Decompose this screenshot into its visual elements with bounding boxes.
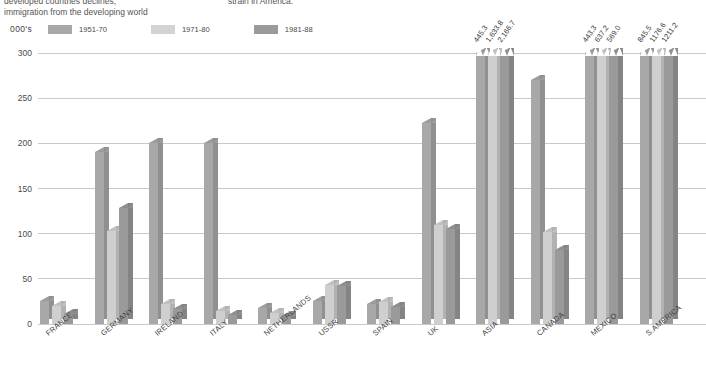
bar-top [391,302,400,307]
bar-top [531,75,540,80]
bar-top-cap [128,203,133,208]
bar-face [258,308,267,324]
y-tick-label-0: 0 [27,319,32,329]
bar-face [585,53,594,324]
bar-face [149,143,158,324]
bar-face [664,53,673,324]
bar[interactable] [585,53,594,324]
bar-top-cap [400,302,405,307]
bar[interactable] [367,304,376,324]
axis-break-marker [500,47,515,56]
bar-top-cap [213,138,218,143]
bar-face [476,53,485,324]
bar-side [346,281,351,319]
bar-top [173,304,182,309]
bar-face [95,152,104,324]
bar-top-cap [552,227,557,232]
legend-label-1971-80: 1971-80 [182,25,210,34]
legend-item-1971-80[interactable]: 1971-80 [151,25,210,34]
axis-break-marker [664,47,679,56]
bar-group [531,53,586,324]
bar-group [476,53,531,324]
bar[interactable] [640,53,649,324]
bar-top [228,310,237,315]
bar[interactable] [609,53,618,324]
bar-group [204,53,259,324]
bar-top-cap [237,310,242,315]
bar-face [609,53,618,324]
legend-item-1951-70[interactable]: 1951-70 [48,25,107,34]
bar-top-cap [182,304,187,309]
bar-face [446,229,455,324]
bar-side [509,48,514,319]
bar-top-cap [158,138,163,143]
bar[interactable] [313,301,322,324]
bar-top [52,301,61,306]
legend-swatch-1981-88 [254,25,278,34]
bar-side [455,224,460,319]
bar-chart-plot-area: 050100150200250300FRANCEGERMANYIRELANDIT… [38,53,706,324]
bar[interactable] [446,229,455,324]
bar-face [313,301,322,324]
legend-swatch-1951-70 [48,25,72,34]
legend-item-1981-88[interactable]: 1981-88 [254,25,313,34]
caption-left-text: developed countries declines, immigratio… [4,0,244,18]
bar[interactable] [543,232,552,324]
legend-swatch-1971-80 [151,25,175,34]
bar-top [543,227,552,232]
bar-side [158,138,163,319]
bar-top [258,303,267,308]
bar-group [258,53,313,324]
y-tick-label-300: 300 [18,48,32,58]
caption-right-text: strain in America. [228,0,448,7]
bar-top [446,224,455,229]
legend-label-1981-88: 1981-88 [285,25,313,34]
y-tick-label-200: 200 [18,138,32,148]
bar[interactable] [149,143,158,324]
bar[interactable] [107,231,116,324]
bar-top [325,280,334,285]
bar[interactable] [597,53,606,324]
bar-face [531,80,540,324]
bar[interactable] [40,301,49,324]
bar-top [434,220,443,225]
bar-face [107,231,116,324]
bar-top [422,118,431,123]
bar[interactable] [488,53,497,324]
bar[interactable] [652,53,661,324]
bar-group [585,53,640,324]
bar-top [204,138,213,143]
y-axis-units-label: 000's [10,24,32,34]
bar-top [379,297,388,302]
bar-face [488,53,497,324]
bar-group [640,53,695,324]
legend-label-1951-70: 1951-70 [79,25,107,34]
bar[interactable] [664,53,673,324]
bar[interactable] [95,152,104,324]
bar[interactable] [476,53,485,324]
bar-top [216,306,225,311]
bar[interactable] [204,143,213,324]
bar-face [640,53,649,324]
bar-side [128,203,133,319]
y-tick-label-50: 50 [23,274,32,284]
bar-side [673,48,678,319]
y-tick-label-250: 250 [18,93,32,103]
bar[interactable] [258,308,267,324]
bar[interactable] [500,53,509,324]
bar-group [422,53,477,324]
bar-face [597,53,606,324]
bar-top-cap [61,301,66,306]
bar-top [107,226,116,231]
bar[interactable] [422,123,431,324]
y-tick-label-150: 150 [18,184,32,194]
bar-top [40,296,49,301]
bar-side [564,245,569,319]
bar-group [367,53,422,324]
bar[interactable] [337,286,346,324]
bar-group [313,53,368,324]
bar[interactable] [434,225,443,324]
bar-face [434,225,443,324]
bar-face [543,232,552,324]
bar[interactable] [531,80,540,324]
